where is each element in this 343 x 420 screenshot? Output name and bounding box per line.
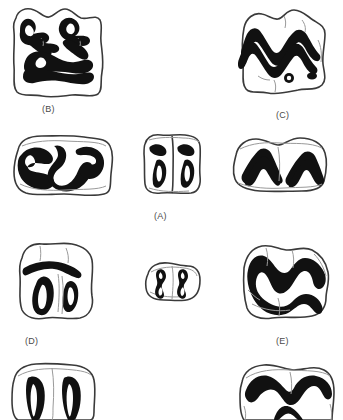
specimen-e-upper [230, 240, 334, 328]
label-e: (E) [276, 336, 289, 346]
specimen-e-lower [232, 360, 336, 420]
specimen-c-lower [228, 133, 332, 195]
specimen-b-upper [8, 4, 108, 100]
specimen-c-upper [228, 6, 332, 100]
label-d: (D) [25, 336, 38, 346]
specimen-b-lower [8, 132, 118, 198]
specimen-a-center [137, 130, 207, 200]
specimen-d-lower [6, 360, 104, 420]
specimen-d-upper [12, 238, 98, 326]
specimen-a-small [142, 258, 204, 306]
label-c: (C) [276, 110, 289, 120]
label-b: (B) [42, 104, 55, 114]
label-a: (A) [154, 211, 167, 221]
